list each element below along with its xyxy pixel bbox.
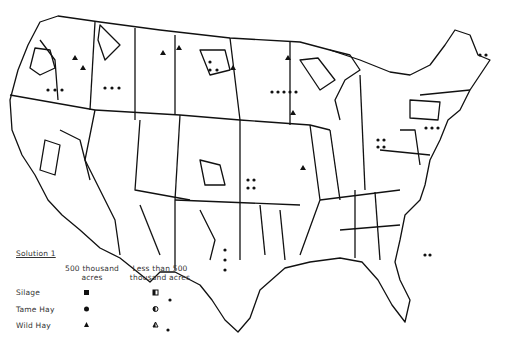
us-region-map <box>0 0 527 342</box>
legend-col2-header: Less than 500 thousand acres <box>125 264 195 282</box>
legend-row-tame-hay: Tame Hay <box>16 305 55 314</box>
legend-col2-line2: thousand acres <box>125 273 195 282</box>
legend-row-silage: Silage <box>16 288 40 297</box>
legend-col1-header: 500 thousand acres <box>62 264 122 282</box>
legend-row-wild-hay: Wild Hay <box>16 321 51 330</box>
legend-col1-line1: 500 thousand <box>62 264 122 273</box>
legend-title: Solution 1 <box>16 249 56 258</box>
legend-col1-line2: acres <box>62 273 122 282</box>
legend-symbols <box>84 290 158 327</box>
us-outline <box>10 16 490 332</box>
legend-col2-line1: Less than 500 <box>125 264 195 273</box>
